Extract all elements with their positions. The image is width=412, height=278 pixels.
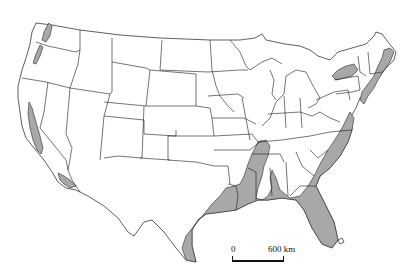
map: 0 600 km: [0, 0, 412, 278]
scale-tick-start: [232, 256, 233, 261]
us-map-svg: [0, 0, 412, 278]
scale-label-600km: 600 km: [268, 244, 295, 254]
scale-tick-end: [283, 256, 284, 261]
scale-label-zero: 0: [231, 244, 236, 254]
scale-bar: [232, 260, 284, 262]
lake-okeechobee: [338, 238, 344, 244]
